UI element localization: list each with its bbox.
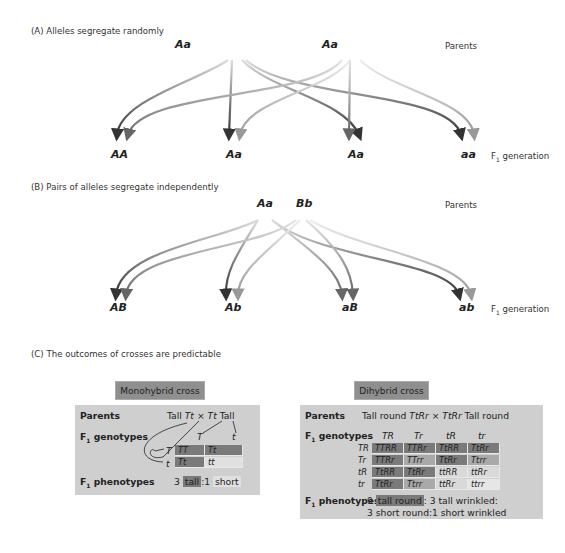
di-cell: TTrr [404, 455, 436, 466]
di-cell: Ttrr [404, 479, 436, 490]
di-col-header-3: tr [478, 430, 485, 441]
offspring-aa-2: Aa [226, 148, 242, 161]
offspring-aa-1: AA [111, 148, 128, 161]
di-col-header-1: Tr [414, 430, 423, 441]
di-cell: TtRR [372, 467, 404, 478]
di-parents-cross: Tall round TtRr × TtRr Tall round [362, 410, 509, 421]
di-cell: TTRr [404, 443, 436, 454]
parents-label-b: Parents [445, 200, 477, 210]
offspring-ab-3: aB [342, 301, 358, 314]
f1-generation-label-a: F1 generation [491, 151, 549, 163]
di-row-header-1: Tr [358, 455, 366, 465]
di-parents-label: Parents [305, 410, 345, 421]
di-cell: ttrr [468, 479, 500, 490]
f1-generation-label-b: F1 generation [491, 304, 549, 316]
section-c-title: (C) The outcomes of crosses are predicta… [31, 349, 221, 359]
di-col-header-2: tR [446, 430, 456, 441]
di-cell: TtRR [436, 443, 468, 454]
di-cell: ttRR [436, 467, 468, 478]
offspring-ab-2: Ab [225, 301, 241, 314]
di-ratio-line1: 9 tall round: 3 tall wrinkled: [367, 495, 498, 506]
dihybrid-panel: Parents Tall round TtRr × TtRr Tall roun… [300, 405, 543, 519]
di-cell: ttRr [468, 467, 500, 478]
monohybrid-panel: Parents Tall Tt × Tt Tall F1 genotypes T… [75, 405, 260, 495]
di-ratio-line2: 3 short round:1 short wrinkled [367, 507, 506, 518]
offspring-ab-1: AB [110, 301, 127, 314]
di-row-header-0: TR [358, 443, 369, 453]
di-genotypes-label: F1 genotypes [305, 430, 373, 443]
segregation-arrows-a [0, 0, 565, 330]
di-cell: TtRr [372, 479, 404, 490]
parent-b2: Bb [296, 197, 312, 210]
section-b-title: (B) Pairs of alleles segregate independe… [31, 182, 219, 192]
di-col-header-0: TR [382, 430, 394, 441]
mono-phenotypes-label: F1 phenotypes [80, 476, 155, 489]
di-row-header-2: tR [358, 467, 367, 477]
mono-ratio: 3 tall:1 short [174, 476, 241, 487]
di-cell: TTRR [372, 443, 404, 454]
mono-gamete-arrows [75, 405, 260, 475]
offspring-aa-4: aa [461, 148, 476, 161]
offspring-ab-4: ab [459, 301, 474, 314]
dihybrid-tag: Dihybrid cross [354, 381, 429, 400]
di-row-header-3: tr [358, 479, 365, 489]
di-cell: Ttrr [468, 455, 500, 466]
di-cell: TtRr [404, 467, 436, 478]
parent-b1: Aa [257, 197, 273, 210]
di-cell: TtRr [468, 443, 500, 454]
di-cell: TTRr [372, 455, 404, 466]
offspring-aa-3: Aa [348, 148, 364, 161]
di-cell: ttRr [436, 479, 468, 490]
di-cell: TtRr [436, 455, 468, 466]
monohybrid-tag: Monohybrid cross [115, 381, 205, 400]
